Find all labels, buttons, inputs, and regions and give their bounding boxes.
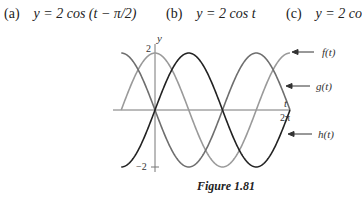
y-tick-bottom-label: −2 (136, 161, 147, 172)
figure-caption: Figure 1.81 (197, 179, 255, 194)
g-label: g(t) (316, 80, 332, 93)
h-label: h(t) (318, 128, 334, 141)
x-tick-end-label: 2π (280, 112, 290, 123)
y-tick-top-label: 2 (146, 43, 151, 54)
f-label: f(t) (322, 46, 336, 59)
y-axis-label: y (156, 32, 162, 44)
